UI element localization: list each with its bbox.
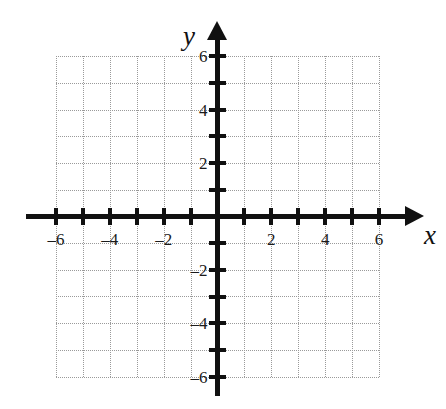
y-axis-tick-label: 4 [199,101,208,118]
x-axis-tick [296,208,300,225]
y-axis-tick-label: 2 [199,155,208,172]
x-axis-tick [242,208,246,225]
y-axis-tick [209,321,226,325]
y-axis-tick-label: –2 [191,261,208,278]
y-axis-tick [209,161,226,165]
y-axis-tick [209,54,226,58]
x-axis-tick-label: 6 [375,231,384,248]
x-axis-tick [81,208,85,225]
y-axis-tick [209,188,226,192]
x-axis-arrow-icon [405,206,424,226]
x-axis-tick [189,208,193,225]
x-axis-tick-label: 2 [267,231,276,248]
x-axis-label: x [424,222,436,249]
y-axis-tick [209,348,226,352]
y-axis-arrow-icon [207,21,227,40]
y-axis-tick-label: –4 [191,315,208,332]
y-axis-tick [209,108,226,112]
x-axis-tick [350,208,354,225]
x-axis-tick [377,208,381,225]
y-axis-tick [209,268,226,272]
y-axis-tick [209,241,226,245]
x-axis-tick [108,208,112,225]
x-axis-tick-label: –6 [47,231,64,248]
x-axis-tick [269,208,273,225]
x-axis-tick-label: –2 [155,231,172,248]
x-axis-tick [323,208,327,225]
y-axis-tick [209,134,226,138]
x-axis-tick [54,208,58,225]
y-axis-tick [209,295,226,299]
coordinate-plane-figure: –6–4–2246642–2–4–6 y x [0,0,446,409]
y-axis-tick-label: –6 [191,368,208,385]
y-axis-tick-label: 6 [199,48,208,65]
x-axis-tick-label: –4 [101,231,118,248]
y-axis-label: y [183,23,195,50]
x-axis-tick [135,208,139,225]
y-axis-tick [209,375,226,379]
y-axis-tick [209,81,226,85]
x-axis-tick-label: 4 [321,231,330,248]
x-axis-tick [162,208,166,225]
